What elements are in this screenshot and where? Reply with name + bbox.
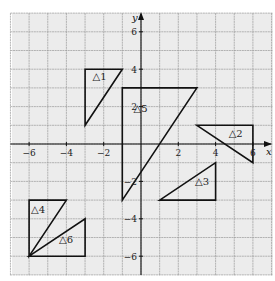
x-tick-label: −6 [22,148,36,158]
x-axis-label: x [266,146,272,157]
triangle-label-6: △6 [59,234,73,245]
x-tick-label: −4 [60,148,74,158]
triangle-label-4: △4 [31,204,45,215]
coordinate-plane: −6−4−2246642−2−4−6xy△1△2△3△4△5△6 [0,0,275,281]
y-tick-label: −6 [124,252,138,262]
x-tick-label: −2 [97,148,110,158]
x-tick-label: 2 [175,148,181,158]
triangle-label-3: △3 [195,176,209,187]
x-tick-label: 4 [213,148,219,158]
coordinate-diagram: −6−4−2246642−2−4−6xy△1△2△3△4△5△6 [0,0,275,281]
y-tick-label: −2 [124,177,137,187]
triangle-label-1: △1 [93,71,107,82]
y-tick-label: 4 [131,65,137,75]
triangle-label-5: △5 [134,103,148,114]
triangle-label-2: △2 [229,128,243,139]
y-axis-label: y [131,12,138,23]
y-tick-label: 6 [131,27,137,37]
x-tick-label: 6 [250,148,256,158]
y-tick-label: −4 [124,214,138,224]
